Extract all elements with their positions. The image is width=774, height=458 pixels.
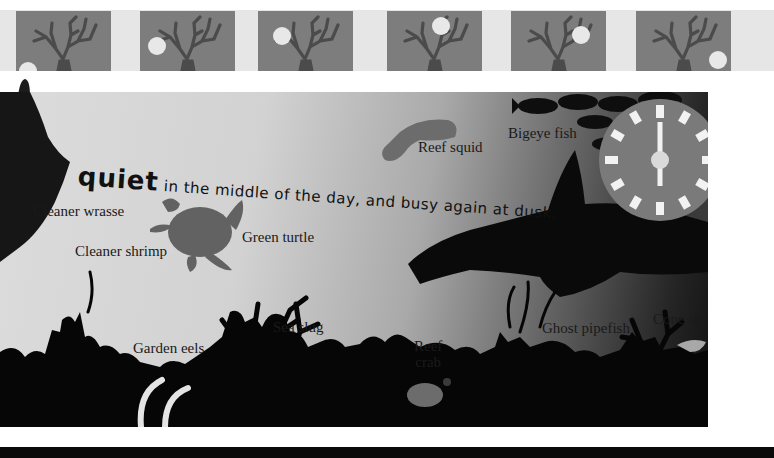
- green-turtle-icon: [150, 198, 243, 272]
- sun-icon: [572, 26, 590, 44]
- sun-icon: [432, 17, 450, 35]
- thumbnail-4: [387, 11, 482, 71]
- thumbnail-3: [258, 11, 353, 71]
- label-reef-crab: Reef crab: [414, 338, 442, 370]
- sun-icon: [709, 51, 727, 69]
- label-cone-shell: Cone shell: [653, 311, 708, 327]
- label-cleaner-wrasse: Cleaner wrasse: [33, 203, 124, 219]
- label-sea-slug: Sea slug: [273, 319, 323, 335]
- coral-icon: [34, 17, 96, 71]
- sun-icon: [148, 37, 166, 55]
- coral-icon: [529, 17, 591, 71]
- sun-icon: [273, 27, 291, 45]
- thumbnail-1: [16, 11, 111, 71]
- label-ghost-pipefish: Ghost pipefish: [542, 320, 630, 336]
- label-reef-squid: Reef squid: [418, 139, 483, 155]
- thumbnail-2: [140, 11, 235, 71]
- label-garden-eels: Garden eels: [133, 340, 204, 356]
- thumbnail-6: [636, 11, 731, 71]
- reef-scene: quiet in the middle of the day, and busy…: [0, 92, 708, 427]
- label-reef-crab-line2: crab: [414, 354, 442, 370]
- label-green-turtle: Green turtle: [242, 229, 314, 245]
- sun-icon: [19, 62, 37, 71]
- clock-icon: [599, 99, 708, 221]
- coral-icon: [158, 17, 220, 71]
- thumbnail-5: [511, 11, 606, 71]
- page-bottom-bar: [0, 447, 774, 458]
- manta-ray-icon: [0, 92, 70, 262]
- coral-icon: [654, 17, 716, 71]
- label-bigeye-fish: Bigeye fish: [508, 125, 577, 141]
- label-cleaner-shrimp: Cleaner shrimp: [75, 243, 167, 259]
- caption-emphasis: quiet: [77, 161, 160, 197]
- label-reef-crab-line1: Reef: [414, 338, 442, 354]
